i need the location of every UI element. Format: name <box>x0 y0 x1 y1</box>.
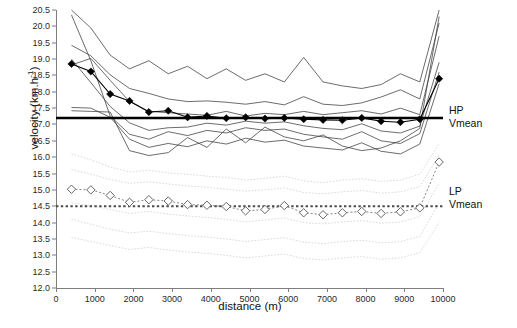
lp-mean-marker <box>241 207 249 215</box>
hp-vmean-label-line2: Vmean <box>449 117 482 130</box>
hp-mean-marker <box>242 114 249 121</box>
lp-mean-marker <box>203 201 211 209</box>
lp-individual-line <box>71 203 439 244</box>
lp-mean-marker <box>338 209 346 217</box>
x-tick-mark <box>211 288 212 292</box>
lp-mean-marker <box>299 209 307 217</box>
lp-vmean-label: LP Vmean <box>449 185 482 210</box>
lp-individual-line <box>71 223 439 260</box>
hp-mean-marker <box>281 114 288 121</box>
lp-vmean-label-line2: Vmean <box>449 198 482 211</box>
lp-mean-marker <box>435 158 443 166</box>
hp-mean-marker <box>184 114 191 121</box>
lp-mean-marker <box>377 209 385 217</box>
hp-mean-marker <box>223 115 230 122</box>
lp-mean-marker <box>145 195 153 203</box>
lp-mean-marker <box>183 200 191 208</box>
x-tick-mark <box>95 288 96 292</box>
hp-mean-marker <box>145 108 152 115</box>
x-tick-mark <box>404 288 405 292</box>
x-tick-mark <box>327 288 328 292</box>
lp-mean-marker <box>87 186 95 194</box>
x-tick-mark <box>288 288 289 292</box>
hp-mean-marker <box>261 115 268 122</box>
hp-vmean-label: HP Vmean <box>449 104 482 129</box>
lp-individual-line <box>71 156 439 194</box>
x-tick-mark <box>56 288 57 292</box>
lp-mean-marker <box>222 202 230 210</box>
hp-mean-marker <box>68 60 75 67</box>
hp-individual-line <box>71 10 439 88</box>
lp-mean-marker <box>416 204 424 212</box>
lp-mean-marker <box>164 197 172 205</box>
lp-mean-marker <box>319 211 327 219</box>
hp-individual-line <box>71 15 439 144</box>
hp-mean-marker <box>358 114 365 121</box>
hp-mean-marker <box>397 119 404 126</box>
hp-individual-line <box>71 23 439 105</box>
lp-mean-marker <box>106 191 114 199</box>
series-canvas <box>56 10 443 288</box>
x-tick-mark <box>443 288 444 292</box>
lp-mean-marker <box>125 198 133 206</box>
lp-vmean-label-line1: LP <box>449 185 482 198</box>
hp-mean-marker <box>165 107 172 114</box>
lp-mean-marker <box>358 207 366 215</box>
hp-vmean-label-line1: HP <box>449 104 482 117</box>
x-tick-mark <box>172 288 173 292</box>
x-tick-mark <box>366 288 367 292</box>
hp-individual-line <box>71 36 439 116</box>
x-tick-mark <box>250 288 251 292</box>
plot-area: 12.012.513.013.514.014.515.015.516.016.5… <box>56 10 443 288</box>
lp-mean-marker <box>280 201 288 209</box>
x-tick-mark <box>133 288 134 292</box>
velocity-vs-distance-chart: velocity (km.h-1) distance (m) 12.012.51… <box>0 0 517 328</box>
lp-individual-line <box>71 144 439 183</box>
lp-mean-marker <box>396 208 404 216</box>
lp-mean-marker <box>67 185 75 193</box>
